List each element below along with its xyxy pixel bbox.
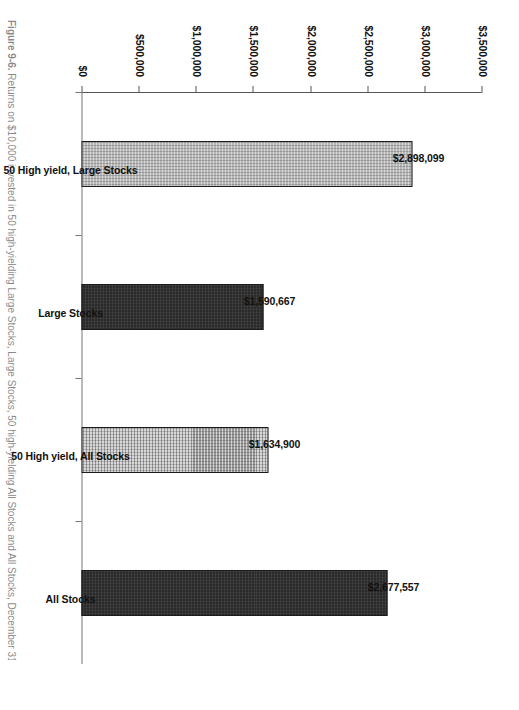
figure-caption-label: Figure 9-6. (5, 20, 16, 71)
figure-caption-text: Returns on $10,000 invested in 50 high-y… (5, 73, 16, 660)
bar-value-label: $1,634,900 (248, 438, 300, 450)
rotated-chart-stage: $0$500,000$1,000,000$1,500,000$2,000,000… (0, 0, 519, 710)
category-axis-label: All Stocks (45, 593, 95, 605)
category-axis-tick (75, 521, 81, 522)
value-axis-tick-label: $2,000,000 (305, 25, 317, 77)
plot-area: $0$500,000$1,000,000$1,500,000$2,000,000… (81, 92, 481, 664)
value-axis-line (81, 92, 481, 93)
value-axis-tick-label: $3,500,000 (476, 25, 488, 77)
category-axis-label: Large Stocks (38, 307, 103, 319)
value-axis-tick-label: $3,000,000 (419, 25, 431, 77)
value-axis-tick-label: $1,500,000 (247, 25, 259, 77)
value-axis-tick-label: $0 (76, 66, 88, 77)
category-axis-label: 50 High yield, All Stocks (11, 450, 129, 462)
value-axis-tick: $3,500,000 (481, 86, 482, 93)
bar: $2,677,557All Stocks (81, 570, 387, 616)
bar-value-label: $2,677,557 (367, 581, 419, 593)
bar-value-label: $2,898,099 (392, 152, 444, 164)
value-axis-tick: $500,000 (138, 86, 139, 93)
value-axis-tick: $2,000,000 (310, 86, 311, 93)
bar: $2,898,09950 High yield, Large Stocks (81, 141, 412, 187)
value-axis-tick-label: $500,000 (133, 34, 145, 77)
value-axis-tick: $3,000,000 (424, 86, 425, 93)
bar: $1,634,90050 High yield, All Stocks (81, 427, 268, 473)
value-axis-tick: $1,500,000 (252, 86, 253, 93)
bar: $1,590,667Large Stocks (81, 284, 263, 330)
figure-caption: Figure 9-6. Returns on $10,000 invested … (4, 20, 17, 660)
value-axis-tick-label: $2,500,000 (362, 25, 374, 77)
category-axis-label: 50 High yield, Large Stocks (3, 164, 137, 176)
value-axis-tick: $1,000,000 (195, 86, 196, 93)
value-axis-tick-label: $1,000,000 (190, 25, 202, 77)
category-axis-tick (75, 92, 81, 93)
bar-value-label: $1,590,667 (243, 295, 295, 307)
category-axis-tick (75, 235, 81, 236)
value-axis-tick: $2,500,000 (367, 86, 368, 93)
category-axis-tick (75, 378, 81, 379)
figure-root: $0$500,000$1,000,000$1,500,000$2,000,000… (0, 0, 519, 710)
